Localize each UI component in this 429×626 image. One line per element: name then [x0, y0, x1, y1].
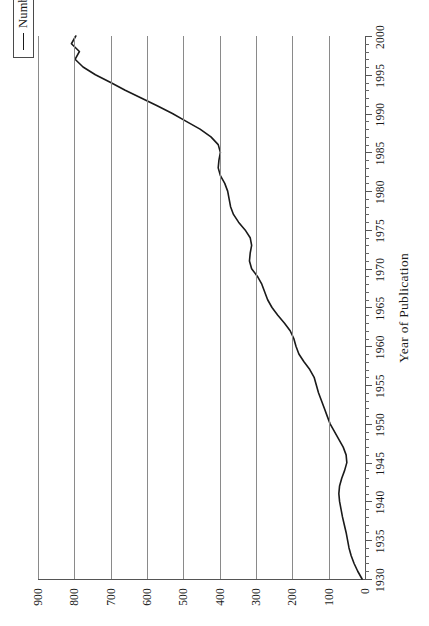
- major-tick-1980: [365, 191, 372, 192]
- minor-tick-1989: [365, 121, 369, 122]
- major-tick-1955: [365, 385, 372, 386]
- minor-tick-1971: [365, 261, 369, 262]
- major-tick-1945: [365, 463, 372, 464]
- minor-tick-1936: [365, 532, 369, 533]
- major-tick-1990: [365, 114, 372, 115]
- value-axis: 0100200300400500600700800900: [38, 582, 365, 626]
- series-path-number-of-references: [71, 36, 362, 579]
- minor-tick-1984: [365, 160, 369, 161]
- major-tick-1935: [365, 540, 372, 541]
- gridline-300: [256, 36, 257, 579]
- minor-tick-1972: [365, 253, 369, 254]
- minor-tick-1993: [365, 90, 369, 91]
- major-tick-1960: [365, 346, 372, 347]
- minor-tick-1954: [365, 393, 369, 394]
- minor-tick-1968: [365, 284, 369, 285]
- minor-tick-1939: [365, 509, 369, 510]
- major-tick-1965: [365, 308, 372, 309]
- major-tick-1930: [365, 579, 372, 580]
- gridline-700: [111, 36, 112, 579]
- category-tick-label-1940: 1940: [374, 491, 386, 515]
- value-tick-label-700: 700: [105, 588, 117, 606]
- rotated-figure-container: 0100200300400500600700800900 19301935194…: [0, 0, 429, 626]
- major-tick-1995: [365, 75, 372, 76]
- value-tick-label-400: 400: [214, 588, 226, 606]
- value-tick-label-0: 0: [359, 588, 371, 594]
- minor-tick-1953: [365, 401, 369, 402]
- value-tick-label-800: 800: [68, 588, 80, 606]
- minor-tick-1981: [365, 183, 369, 184]
- category-tick-label-1935: 1935: [374, 529, 386, 553]
- gridline-400: [220, 36, 221, 579]
- minor-tick-1937: [365, 525, 369, 526]
- category-axis-title: Year of Publication: [396, 36, 412, 580]
- minor-tick-1986: [365, 145, 369, 146]
- category-tick-label-1970: 1970: [374, 258, 386, 282]
- plot-area: [38, 36, 365, 580]
- category-tick-label-1980: 1980: [374, 180, 386, 204]
- minor-tick-1977: [365, 214, 369, 215]
- category-tick-label-2000: 2000: [374, 25, 386, 49]
- minor-tick-1974: [365, 238, 369, 239]
- category-tick-label-1930: 1930: [374, 568, 386, 592]
- minor-tick-1931: [365, 571, 369, 572]
- category-tick-label-1990: 1990: [374, 103, 386, 127]
- legend-entry-label: Number of References: [16, 0, 31, 28]
- category-tick-label-1995: 1995: [374, 64, 386, 88]
- minor-tick-1963: [365, 323, 369, 324]
- minor-tick-1951: [365, 416, 369, 417]
- minor-tick-1961: [365, 339, 369, 340]
- minor-tick-1933: [365, 556, 369, 557]
- minor-tick-1947: [365, 447, 369, 448]
- minor-tick-1959: [365, 354, 369, 355]
- minor-tick-1988: [365, 129, 369, 130]
- minor-tick-1969: [365, 276, 369, 277]
- minor-tick-1973: [365, 245, 369, 246]
- minor-tick-1966: [365, 300, 369, 301]
- minor-tick-1994: [365, 83, 369, 84]
- gridline-800: [74, 36, 75, 579]
- major-tick-2000: [365, 36, 372, 37]
- major-tick-1950: [365, 424, 372, 425]
- minor-tick-1957: [365, 370, 369, 371]
- category-tick-label-1950: 1950: [374, 413, 386, 437]
- major-tick-1975: [365, 230, 372, 231]
- category-axis-labels: 1930193519401945195019551960196519701975…: [374, 36, 392, 580]
- minor-tick-1952: [365, 408, 369, 409]
- minor-tick-1978: [365, 207, 369, 208]
- minor-tick-1982: [365, 176, 369, 177]
- minor-tick-1964: [365, 315, 369, 316]
- category-tick-label-1955: 1955: [374, 374, 386, 398]
- legend-line-swatch-icon: [23, 33, 24, 50]
- gridline-200: [292, 36, 293, 579]
- gridline-500: [183, 36, 184, 579]
- minor-tick-1949: [365, 432, 369, 433]
- major-tick-1940: [365, 501, 372, 502]
- minor-tick-1998: [365, 52, 369, 53]
- category-tick-label-1960: 1960: [374, 335, 386, 359]
- minor-tick-1941: [365, 494, 369, 495]
- minor-tick-1958: [365, 362, 369, 363]
- minor-tick-1976: [365, 222, 369, 223]
- line-chart-figure: 0100200300400500600700800900 19301935194…: [0, 0, 429, 626]
- major-tick-1985: [365, 152, 372, 153]
- value-tick-label-100: 100: [323, 588, 335, 606]
- minor-tick-1948: [365, 439, 369, 440]
- minor-tick-1996: [365, 67, 369, 68]
- value-tick-label-200: 200: [286, 588, 298, 606]
- category-tick-label-1965: 1965: [374, 297, 386, 321]
- minor-tick-1999: [365, 44, 369, 45]
- minor-tick-1943: [365, 478, 369, 479]
- minor-tick-1991: [365, 106, 369, 107]
- minor-tick-1992: [365, 98, 369, 99]
- category-tick-label-1975: 1975: [374, 219, 386, 243]
- minor-tick-1997: [365, 59, 369, 60]
- value-tick-label-600: 600: [141, 588, 153, 606]
- gridline-600: [147, 36, 148, 579]
- gridline-900: [38, 36, 39, 579]
- chart-legend: Number of References: [13, 0, 34, 58]
- category-tick-label-1945: 1945: [374, 452, 386, 476]
- minor-tick-1942: [365, 486, 369, 487]
- minor-tick-1962: [365, 331, 369, 332]
- minor-tick-1934: [365, 548, 369, 549]
